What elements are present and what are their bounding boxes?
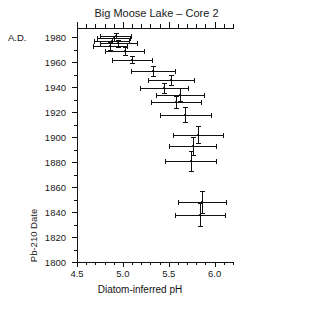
data-marker xyxy=(109,45,111,47)
x-tick-label-6: 6.0 xyxy=(200,268,230,279)
y-tick-minor-1930 xyxy=(74,100,78,101)
date-error-cap-bottom xyxy=(198,226,203,227)
x-tick-6.1 xyxy=(224,262,225,265)
y-tick-label-1800: 1800 xyxy=(30,257,66,268)
x-tick-top-5.6 xyxy=(178,24,179,28)
era-label: A.D. xyxy=(8,33,26,43)
ph-error-cap-left xyxy=(131,69,132,74)
ph-error-cap-right xyxy=(152,58,153,63)
date-error-cap-top xyxy=(116,40,121,41)
date-error-cap-top xyxy=(174,96,179,97)
x-tick-5.5 xyxy=(169,262,170,267)
ph-error-cap-left xyxy=(169,144,170,149)
ph-error-cap-left xyxy=(156,93,157,98)
x-tick-top-5.8 xyxy=(196,24,197,28)
date-error-cap-top xyxy=(108,42,113,43)
ph-error-cap-left xyxy=(112,58,113,63)
x-axis-title: Diatom-inferred pH xyxy=(0,285,280,295)
x-tick-top-5.3 xyxy=(150,24,151,28)
ph-error-cap-left xyxy=(175,213,176,218)
y-tick-minor-1870 xyxy=(74,175,78,176)
date-error-cap-top xyxy=(123,47,128,48)
data-marker xyxy=(131,59,133,61)
x-tick-top-6.2 xyxy=(233,24,234,28)
data-marker xyxy=(190,160,192,162)
y-tick-label-1960: 1960 xyxy=(30,57,66,68)
chart-legend: Standard dev. of Pb-210 date Standard er… xyxy=(0,300,313,330)
date-error-cap-top xyxy=(191,137,196,138)
y-tick-label-1980: 1980 xyxy=(30,32,66,43)
x-tick-top-4.8 xyxy=(105,24,106,28)
date-error-cap-bottom xyxy=(151,76,156,77)
y-tick-1920 xyxy=(72,112,78,113)
date-error-cap-bottom xyxy=(169,85,174,86)
y-tick-label-1940: 1940 xyxy=(30,82,66,93)
x-tick-label-4.5: 4.5 xyxy=(62,268,92,279)
y-tick-label-1880: 1880 xyxy=(30,157,66,168)
y-tick-label-1920: 1920 xyxy=(30,107,66,118)
y-tick-label-1860: 1860 xyxy=(30,182,66,193)
ph-error-cap-left xyxy=(178,200,179,205)
x-tick-5.1 xyxy=(132,262,133,265)
y-tick-1960 xyxy=(72,62,78,63)
y-tick-1880 xyxy=(72,162,78,163)
ph-error-cap-right xyxy=(188,86,189,91)
y-tick-label-1900: 1900 xyxy=(30,132,66,143)
date-error-cap-bottom xyxy=(183,122,188,123)
x-tick-top-5.2 xyxy=(141,24,142,28)
date-error-cap-top xyxy=(183,107,188,108)
x-tick-top-4.5 xyxy=(77,22,78,28)
y-tick-1900 xyxy=(72,137,78,138)
x-tick-6.2 xyxy=(233,262,234,265)
ph-error-cap-right xyxy=(211,113,212,118)
data-marker xyxy=(170,79,172,81)
y-tick-1820 xyxy=(72,237,78,238)
x-tick-label-5: 5.0 xyxy=(108,268,138,279)
date-error-cap-top xyxy=(200,191,205,192)
axis-top xyxy=(77,28,234,29)
x-tick-4.8 xyxy=(105,262,106,265)
x-tick-top-5.1 xyxy=(132,24,133,28)
date-error-cap-bottom xyxy=(123,55,128,56)
ph-error-cap-right xyxy=(223,133,224,138)
ph-error-cap-right xyxy=(131,34,132,39)
date-error-cap-bottom xyxy=(196,143,201,144)
ph-error-cap-left xyxy=(173,133,174,138)
chart-title: Big Moose Lake – Core 2 xyxy=(0,8,313,19)
ph-error-cap-right xyxy=(216,159,217,164)
axis-bottom xyxy=(77,262,234,263)
data-marker xyxy=(184,114,186,116)
y-tick-1940 xyxy=(72,87,78,88)
x-tick-5.6 xyxy=(178,262,179,265)
ph-error-cap-right xyxy=(130,36,131,41)
y-tick-minor-1910 xyxy=(74,125,78,126)
date-error-cap-top xyxy=(169,75,174,76)
y-tick-minor-1850 xyxy=(74,200,78,201)
y-tick-minor-1950 xyxy=(74,75,78,76)
date-error-cap-top xyxy=(151,66,156,67)
x-tick-top-5 xyxy=(123,22,124,28)
x-tick-5.9 xyxy=(205,262,206,265)
date-error-cap-top xyxy=(130,56,135,57)
x-tick-label-5.5: 5.5 xyxy=(154,268,184,279)
data-marker xyxy=(197,134,199,136)
x-tick-top-5.7 xyxy=(187,24,188,28)
date-error-cap-top xyxy=(196,126,201,127)
y-tick-minor-1810 xyxy=(74,250,78,251)
y-tick-1840 xyxy=(72,212,78,213)
data-marker xyxy=(152,70,154,72)
ph-error-cap-left xyxy=(93,44,94,49)
ph-error-cap-right xyxy=(225,213,226,218)
date-error-cap-top xyxy=(198,203,203,204)
x-tick-4.7 xyxy=(95,262,96,265)
ph-error-cap-left xyxy=(94,39,95,44)
ph-error-cap-right xyxy=(226,200,227,205)
ph-error-cap-left xyxy=(151,100,152,105)
date-error-cap-top xyxy=(162,83,167,84)
x-tick-5.4 xyxy=(160,262,161,265)
date-error-cap-bottom xyxy=(116,47,121,48)
x-tick-top-5.5 xyxy=(169,22,170,28)
data-marker xyxy=(124,50,126,52)
y-tick-label-1840: 1840 xyxy=(30,207,66,218)
x-tick-6 xyxy=(215,262,216,267)
